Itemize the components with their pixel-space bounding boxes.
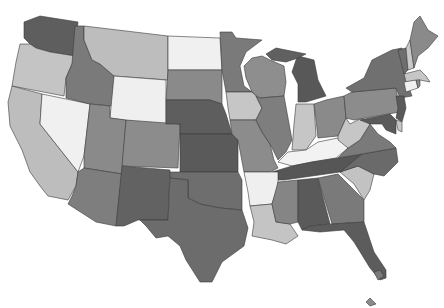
state-ct (404, 80, 418, 92)
state-mi (292, 56, 326, 102)
state-co (122, 120, 180, 168)
state-wy (110, 76, 166, 126)
state-sd (166, 70, 222, 104)
us-choropleth-map (0, 0, 444, 308)
state-de (396, 120, 402, 132)
state-ks (180, 134, 238, 172)
state-me (410, 16, 438, 68)
state-nm (116, 166, 170, 226)
state-fl (302, 222, 386, 280)
state-nd (168, 36, 222, 70)
state-hi2 (366, 298, 376, 306)
state-nj (396, 96, 406, 122)
state-in (292, 104, 316, 150)
